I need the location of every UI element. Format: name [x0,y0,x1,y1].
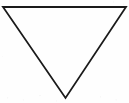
inverted-triangle-shape [3,7,126,98]
triangle-svg [0,0,129,103]
figure-canvas [0,0,129,103]
